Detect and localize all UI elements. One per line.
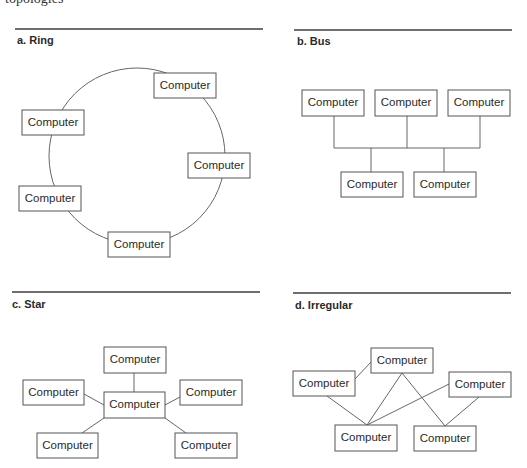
svg-text:Computer: Computer xyxy=(160,79,211,91)
svg-text:Computer: Computer xyxy=(42,439,93,451)
svg-text:Computer: Computer xyxy=(109,398,160,410)
star-node-top: Computer xyxy=(104,347,166,373)
irregular-link xyxy=(367,384,449,425)
irregular-node-bottom-right: Computer xyxy=(414,426,476,451)
star-topology: Computer Computer Computer Computer Comp… xyxy=(23,347,242,458)
svg-text:Computer: Computer xyxy=(28,386,79,398)
ring-node-left-bottom: Computer xyxy=(19,186,81,211)
star-node-bottom-left: Computer xyxy=(37,433,98,458)
topology-diagrams: Computer Computer Computer Computer Comp… xyxy=(0,0,527,468)
irregular-link xyxy=(327,396,367,425)
irregular-link xyxy=(355,362,371,379)
svg-text:Computer: Computer xyxy=(377,354,428,366)
bus-node-top-right: Computer xyxy=(448,90,510,116)
svg-text:Computer: Computer xyxy=(420,432,471,444)
svg-text:Computer: Computer xyxy=(341,431,392,443)
ring-node-bottom: Computer xyxy=(108,232,170,257)
bus-topology: Computer Computer Computer Computer Comp… xyxy=(302,90,510,197)
irregular-link xyxy=(445,397,479,426)
svg-text:Computer: Computer xyxy=(25,192,76,204)
irregular-topology: Computer Computer Computer Computer Comp… xyxy=(293,348,511,451)
svg-text:Computer: Computer xyxy=(194,159,245,171)
star-link xyxy=(165,418,186,433)
svg-text:Computer: Computer xyxy=(420,178,471,190)
svg-text:Computer: Computer xyxy=(381,96,432,108)
star-node-left: Computer xyxy=(23,380,84,405)
svg-text:Computer: Computer xyxy=(299,377,350,389)
star-link xyxy=(84,394,104,405)
irregular-node-right: Computer xyxy=(449,372,511,397)
star-link xyxy=(165,397,180,405)
irregular-node-left: Computer xyxy=(293,371,355,396)
svg-text:Computer: Computer xyxy=(455,378,506,390)
ring-node-left-top: Computer xyxy=(22,110,84,135)
star-node-hub: Computer xyxy=(104,392,165,418)
bus-node-bottom-right: Computer xyxy=(414,172,476,197)
bus-node-top-middle: Computer xyxy=(375,90,437,116)
svg-text:Computer: Computer xyxy=(110,353,161,365)
irregular-node-bottom-left: Computer xyxy=(335,425,397,451)
ring-node-top: Computer xyxy=(154,73,216,98)
svg-text:Computer: Computer xyxy=(186,386,237,398)
svg-text:Computer: Computer xyxy=(308,96,359,108)
svg-text:Computer: Computer xyxy=(28,116,79,128)
irregular-node-top: Computer xyxy=(371,348,433,373)
bus-node-top-left: Computer xyxy=(302,90,364,116)
irregular-link xyxy=(402,373,445,426)
star-link xyxy=(82,418,104,433)
irregular-link xyxy=(367,373,402,425)
svg-text:Computer: Computer xyxy=(347,178,398,190)
ring-topology: Computer Computer Computer Computer Comp… xyxy=(19,68,250,257)
svg-text:Computer: Computer xyxy=(114,238,165,250)
svg-text:Computer: Computer xyxy=(454,96,505,108)
bus-node-bottom-left: Computer xyxy=(341,172,403,197)
star-node-right: Computer xyxy=(180,380,242,405)
star-node-bottom-right: Computer xyxy=(175,433,237,458)
svg-text:Computer: Computer xyxy=(181,439,232,451)
ring-node-right: Computer xyxy=(188,153,250,178)
